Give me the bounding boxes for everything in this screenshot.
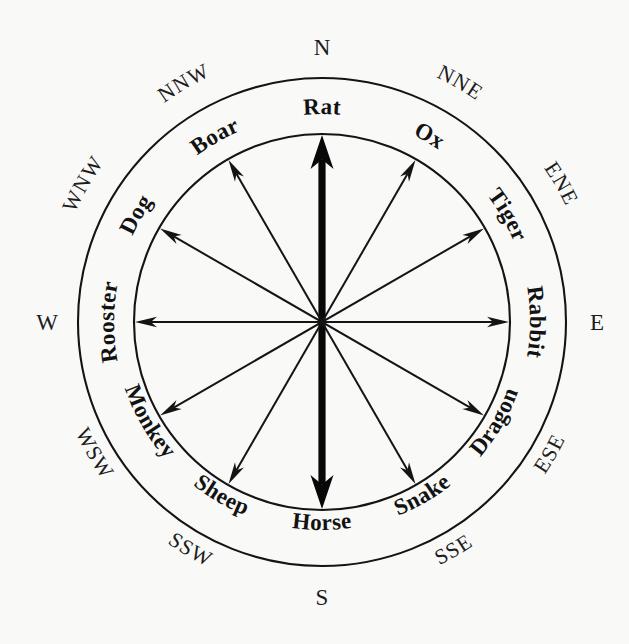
axis-arrows-group <box>135 135 509 509</box>
zodiac-label-monkey: Monkey <box>120 381 182 463</box>
label-text: Tiger <box>483 183 533 244</box>
label-text: ENE <box>540 157 584 209</box>
compass-rose-figure: RatOxTigerRabbitDragonSnakeHorseSheepMon… <box>0 0 629 644</box>
compass-label-ese: ESE <box>529 430 570 477</box>
compass-label-wnw: WNW <box>57 151 108 215</box>
zodiac-label-sheep: Sheep <box>190 469 253 520</box>
label-text: Sheep <box>190 469 253 520</box>
arrowhead <box>229 160 245 182</box>
zodiac-label-ox: Ox <box>410 117 449 154</box>
compass-label-nne: NNE <box>434 60 488 105</box>
label-text: Rabbit <box>522 284 550 359</box>
compass-label-s: S <box>316 585 329 610</box>
compass-label-ene: ENE <box>540 157 584 209</box>
arrowhead <box>229 462 245 484</box>
label-text: NNW <box>153 59 213 108</box>
label-text: Dog <box>115 190 158 239</box>
compass-label-nnw: NNW <box>153 59 213 108</box>
compass-label-w: W <box>36 310 58 335</box>
compass-label-sse: SSE <box>431 529 477 570</box>
arrowhead <box>462 229 484 245</box>
compass-label-e: E <box>590 310 604 335</box>
arrowhead <box>400 160 416 182</box>
zodiac-label-boar: Boar <box>186 112 243 159</box>
label-text: SSW <box>164 527 217 571</box>
zodiac-label-rat: Rat <box>303 94 342 120</box>
zodiac-label-horse: Horse <box>291 508 353 535</box>
zodiac-label-dog: Dog <box>115 190 158 239</box>
arrowhead <box>160 229 182 245</box>
label-text: WNW <box>57 151 108 215</box>
zodiac-label-snake: Snake <box>390 469 455 521</box>
compass-label-ssw: SSW <box>164 527 217 571</box>
zodiac-label-rabbit: Rabbit <box>522 284 550 359</box>
compass-diagram-root: RatOxTigerRabbitDragonSnakeHorseSheepMon… <box>0 0 629 644</box>
label-text: Snake <box>390 469 455 521</box>
label-text: WSW <box>71 424 119 484</box>
arrowhead <box>462 400 484 416</box>
compass-label-n: N <box>314 35 331 60</box>
arrowhead <box>400 462 416 484</box>
label-text: Dragon <box>464 384 522 460</box>
label-text: Monkey <box>120 381 182 463</box>
label-text: NNE <box>434 60 488 105</box>
arrowhead <box>160 400 182 416</box>
zodiac-label-tiger: Tiger <box>483 183 533 244</box>
zodiac-label-rooster: Rooster <box>94 279 123 364</box>
label-text: Horse <box>291 508 353 535</box>
zodiac-label-dragon: Dragon <box>464 384 522 460</box>
label-text: Rat <box>303 94 342 120</box>
label-text: Ox <box>410 117 449 154</box>
label-text: Rooster <box>94 279 123 364</box>
label-text: SSE <box>431 529 477 570</box>
label-text: ESE <box>529 430 570 477</box>
label-text: Boar <box>186 112 243 159</box>
compass-label-wsw: WSW <box>71 424 119 484</box>
